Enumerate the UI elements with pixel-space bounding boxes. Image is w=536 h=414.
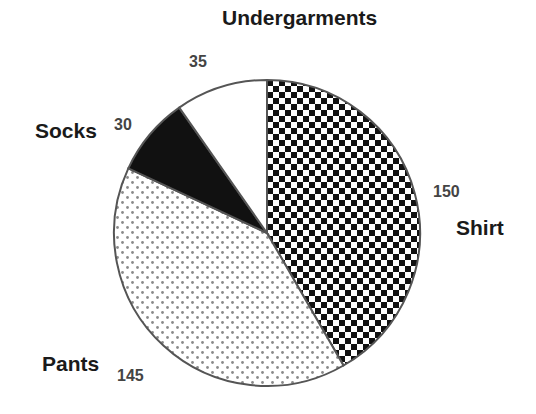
value-label-pants: 145 (117, 367, 144, 384)
value-label-socks: 30 (114, 116, 132, 133)
value-label-undergarments: 35 (189, 53, 207, 70)
pie-slices (114, 80, 420, 386)
category-label-shirt: Shirt (456, 216, 504, 239)
pie-chart: Shirt150Pants145Socks30Undergarments35 (0, 0, 536, 414)
category-label-socks: Socks (35, 119, 97, 142)
value-label-shirt: 150 (433, 183, 460, 200)
category-label-pants: Pants (42, 352, 99, 375)
category-label-undergarments: Undergarments (222, 6, 377, 29)
